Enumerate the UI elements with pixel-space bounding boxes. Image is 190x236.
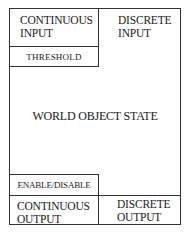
discrete-input-line1: DISCRETE xyxy=(118,14,171,27)
discrete-input-line2: INPUT xyxy=(118,27,171,40)
enable-disable-label: ENABLE/DISABLE xyxy=(9,180,99,190)
output-divider xyxy=(9,195,181,196)
continuous-output-label: CONTINUOUS OUTPUT xyxy=(17,200,90,226)
continuous-input-label: CONTINUOUS INPUT xyxy=(20,14,93,40)
continuous-input-line2: INPUT xyxy=(20,27,93,40)
input-divider xyxy=(9,46,99,47)
continuous-output-line1: CONTINUOUS xyxy=(17,200,90,213)
discrete-output-label: DISCRETE OUTPUT xyxy=(117,198,170,224)
threshold-bottom-line xyxy=(9,66,99,67)
continuous-output-line2: OUTPUT xyxy=(17,213,90,226)
continuous-input-line1: CONTINUOUS xyxy=(20,14,93,27)
world-object-state-label: WORLD OBJECT STATE xyxy=(9,110,181,123)
threshold-label: THRESHOLD xyxy=(9,52,99,62)
discrete-input-label: DISCRETE INPUT xyxy=(118,14,171,40)
discrete-output-line1: DISCRETE xyxy=(117,198,170,211)
enable-top-line xyxy=(9,174,99,175)
discrete-output-line2: OUTPUT xyxy=(117,211,170,224)
